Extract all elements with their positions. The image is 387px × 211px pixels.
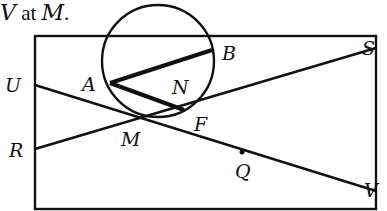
caption-period: . bbox=[64, 1, 69, 25]
caption-at: at bbox=[16, 1, 42, 25]
label-u: U bbox=[5, 74, 22, 96]
label-r: R bbox=[8, 139, 23, 161]
label-v: V bbox=[364, 179, 380, 201]
geometry-diagram: V at M. U R A B N F M Q S V bbox=[0, 0, 387, 211]
label-s: S bbox=[362, 37, 375, 59]
line-uv bbox=[35, 85, 376, 191]
caption: V at M. bbox=[0, 0, 69, 25]
point-q-dot bbox=[240, 150, 245, 155]
label-a: A bbox=[80, 73, 96, 95]
chord-ab bbox=[110, 50, 212, 83]
label-m: M bbox=[120, 128, 141, 150]
label-q: Q bbox=[235, 160, 251, 182]
label-f: F bbox=[193, 113, 208, 135]
label-b: B bbox=[221, 42, 236, 64]
label-n: N bbox=[171, 76, 190, 98]
caption-m: M bbox=[41, 0, 65, 25]
